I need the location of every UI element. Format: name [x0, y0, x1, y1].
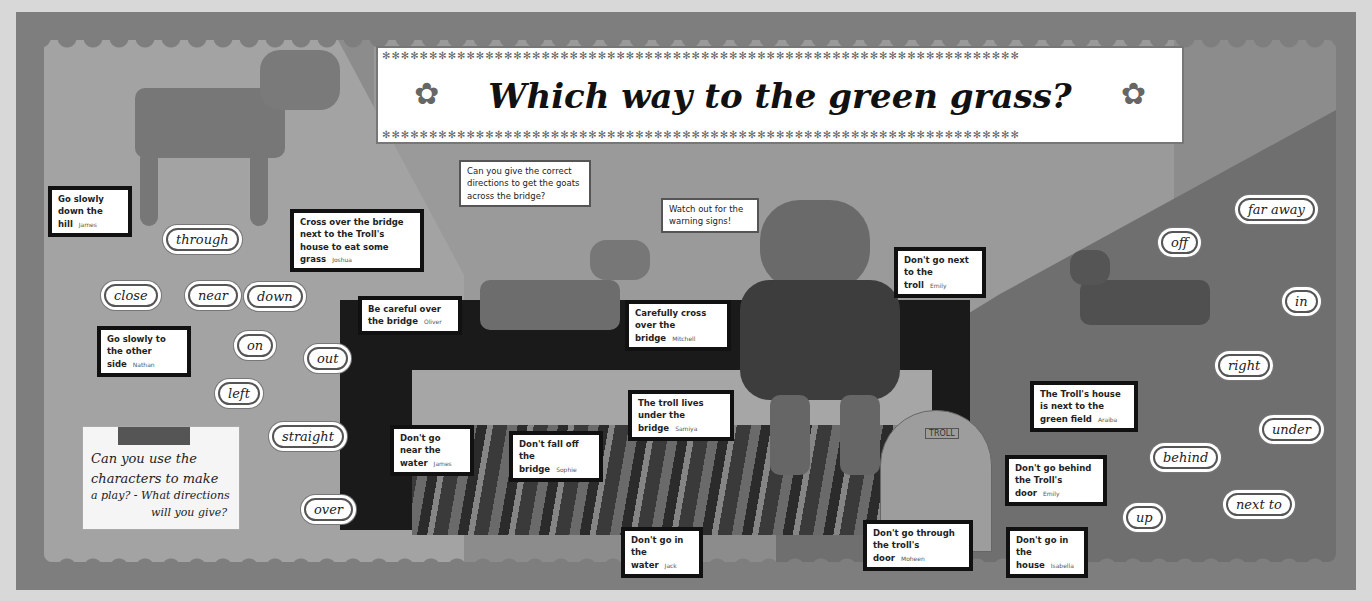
word-cloud: in	[1285, 290, 1318, 313]
word-cloud: over	[304, 498, 353, 521]
student-card: The troll lives under the bridgeSamiya	[628, 390, 734, 441]
river-water	[412, 425, 912, 535]
title-banner: ✻✻✻✻✻✻✻✻✻✻✻✻✻✻✻✻✻✻✻✻✻✻✻✻✻✻✻✻✻✻✻✻✻✻✻✻✻✻✻✻…	[376, 46, 1184, 144]
word-cloud: out	[307, 347, 348, 370]
word-cloud: up	[1126, 506, 1163, 529]
word-cloud: far away	[1238, 198, 1315, 221]
student-card: Don't go through the troll's doorMoheen	[863, 520, 973, 571]
word-cloud: on	[237, 334, 273, 357]
student-card: Don't fall off the bridgeSophie	[509, 431, 603, 482]
student-card: Don't go in the waterJack	[621, 527, 703, 578]
troll-picture	[118, 427, 190, 445]
warning-card: Watch out for the warning signs!	[661, 198, 759, 233]
word-cloud: left	[218, 382, 260, 405]
student-card: Be careful over the bridgeOliver	[358, 296, 462, 335]
star-border-top: ✻✻✻✻✻✻✻✻✻✻✻✻✻✻✻✻✻✻✻✻✻✻✻✻✻✻✻✻✻✻✻✻✻✻✻✻✻✻✻✻…	[382, 50, 1178, 61]
student-card: Cross over the bridge next to the Troll'…	[290, 209, 424, 272]
student-card: Carefully cross over the bridgeMitchell	[625, 300, 731, 351]
student-card: Go slowly down the hillJames	[48, 186, 132, 237]
word-cloud: through	[166, 228, 239, 251]
student-card: Don't go behind the Troll's doorEmily	[1005, 455, 1107, 506]
door-sign: TROLL	[925, 428, 959, 439]
student-card: Go slowly to the other sideNathan	[97, 326, 191, 377]
page-title: Which way to the green grass?	[378, 76, 1182, 116]
prompt-card: Can you give the correct directions to g…	[459, 160, 591, 207]
word-cloud: behind	[1153, 446, 1218, 469]
student-card: Don't go in the houseIsabella	[1006, 527, 1088, 578]
handwritten-note: Can you use the characters to make a pla…	[82, 426, 240, 530]
word-cloud: right	[1218, 354, 1270, 377]
word-cloud: straight	[272, 425, 344, 448]
word-cloud: close	[104, 284, 158, 307]
word-cloud: under	[1262, 418, 1321, 441]
student-card: The Troll's house is next to the green f…	[1030, 381, 1138, 432]
word-cloud: off	[1161, 231, 1198, 254]
star-border-bottom: ✻✻✻✻✻✻✻✻✻✻✻✻✻✻✻✻✻✻✻✻✻✻✻✻✻✻✻✻✻✻✻✻✻✻✻✻✻✻✻✻…	[382, 129, 1178, 140]
student-card: Don't go near the waterJames	[390, 425, 474, 476]
student-card: Don't go next to the trollEmily	[894, 247, 986, 298]
word-cloud: down	[247, 285, 303, 308]
flower-icon: ✿	[1121, 76, 1146, 111]
word-cloud: next to	[1226, 493, 1292, 516]
word-cloud: near	[188, 284, 238, 307]
